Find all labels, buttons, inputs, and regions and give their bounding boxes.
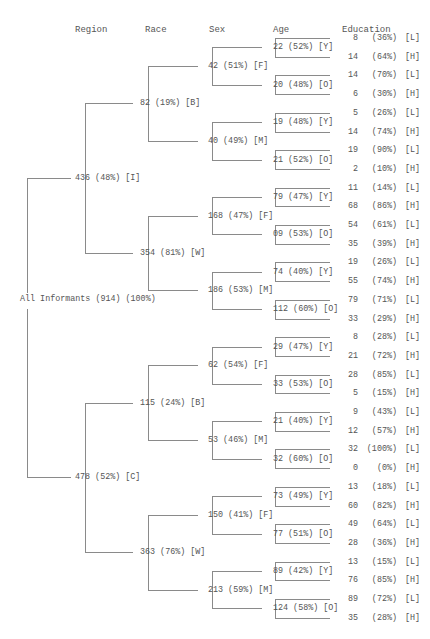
education-count: 14 — [338, 70, 358, 80]
education-percent: (10%) — [361, 164, 397, 174]
age-node-label: 21 (40%) [Y] — [273, 416, 333, 426]
region-bracket-top — [85, 403, 133, 404]
education-category: [H] — [405, 426, 420, 436]
education-count: 79 — [338, 295, 358, 305]
age-bracket-bottom — [275, 356, 330, 357]
education-count: 12 — [338, 426, 358, 436]
race-bracket-top — [148, 66, 198, 67]
age-node-label: 20 (48%) [O] — [273, 80, 333, 90]
age-bracket-top — [275, 524, 330, 525]
education-count: 33 — [338, 314, 358, 324]
education-percent: (72%) — [361, 594, 397, 604]
race-bracket-bottom — [148, 590, 198, 591]
region-bracket-bottom — [85, 552, 133, 553]
race-node-label: 115 (24%) [B] — [140, 398, 205, 408]
sex-node-label: 150 (41%) [F] — [208, 510, 273, 520]
education-percent: (74%) — [361, 276, 397, 286]
sex-bracket-top — [212, 571, 262, 572]
age-bracket-bottom — [275, 169, 330, 170]
sex-bracket-top — [212, 197, 262, 198]
education-category: [H] — [405, 127, 420, 137]
education-category: [L] — [405, 407, 420, 417]
education-count: 35 — [338, 613, 358, 623]
sex-bracket-bottom — [212, 608, 262, 609]
education-count: 8 — [338, 332, 358, 342]
region-bracket-top — [85, 103, 133, 104]
education-category: [L] — [405, 33, 420, 43]
education-count: 60 — [338, 501, 358, 511]
education-percent: (28%) — [361, 332, 397, 342]
sex-bracket-bottom — [212, 160, 262, 161]
education-category: [H] — [405, 89, 420, 99]
age-node-label: 77 (51%) [O] — [273, 529, 333, 539]
education-category: [H] — [405, 164, 420, 174]
education-percent: (15%) — [361, 388, 397, 398]
sex-bracket-top — [212, 122, 262, 123]
root-bracket-vertical-top — [27, 178, 28, 293]
education-percent: (57%) — [361, 426, 397, 436]
education-category: [H] — [405, 501, 420, 511]
sex-bracket-bottom — [212, 234, 262, 235]
age-bracket-top — [275, 375, 330, 376]
education-category: [H] — [405, 52, 420, 62]
education-count: 14 — [338, 127, 358, 137]
education-percent: (39%) — [361, 239, 397, 249]
root-bracket-vertical-bottom — [27, 309, 28, 478]
race-bracket-bottom — [148, 440, 198, 441]
race-bracket-bottom — [148, 290, 198, 291]
race-bracket-top — [148, 216, 198, 217]
education-category: [H] — [405, 239, 420, 249]
education-count: 11 — [338, 183, 358, 193]
sex-node-label: 40 (49%) [M] — [208, 136, 268, 146]
education-count: 9 — [338, 407, 358, 417]
education-category: [L] — [405, 145, 420, 155]
age-bracket-bottom — [275, 94, 330, 95]
age-bracket-bottom — [275, 132, 330, 133]
age-bracket-top — [275, 412, 330, 413]
region-node-label: 478 (52%) [C] — [75, 472, 140, 482]
education-category: [H] — [405, 388, 420, 398]
age-bracket-bottom — [275, 393, 330, 394]
education-percent: (26%) — [361, 257, 397, 267]
race-node-label: 354 (81%) [W] — [140, 248, 205, 258]
education-category: [L] — [405, 557, 420, 567]
education-percent: (74%) — [361, 127, 397, 137]
age-node-label: 74 (40%) [Y] — [273, 267, 333, 277]
education-percent: (61%) — [361, 220, 397, 230]
age-bracket-bottom — [275, 244, 330, 245]
age-node-label: 124 (58%) [O] — [273, 603, 338, 613]
education-category: [L] — [405, 519, 420, 529]
sex-bracket-bottom — [212, 459, 262, 460]
education-percent: (26%) — [361, 108, 397, 118]
education-count: 28 — [338, 538, 358, 548]
age-node-label: 22 (52%) [Y] — [273, 42, 333, 52]
education-count: 0 — [338, 463, 358, 473]
education-category: [H] — [405, 463, 420, 473]
education-percent: (28%) — [361, 613, 397, 623]
education-count: 21 — [338, 351, 358, 361]
age-bracket-bottom — [275, 580, 330, 581]
education-count: 89 — [338, 594, 358, 604]
age-node-label: 89 (42%) [Y] — [273, 566, 333, 576]
age-bracket-bottom — [275, 281, 330, 282]
education-category: [L] — [405, 108, 420, 118]
education-count: 19 — [338, 257, 358, 267]
education-category: [L] — [405, 594, 420, 604]
race-node-label: 82 (19%) [B] — [140, 98, 200, 108]
education-category: [H] — [405, 351, 420, 361]
education-percent: (82%) — [361, 501, 397, 511]
age-bracket-top — [275, 487, 330, 488]
sex-node-label: 53 (46%) [M] — [208, 435, 268, 445]
age-node-label: 19 (48%) [Y] — [273, 117, 333, 127]
education-category: [H] — [405, 613, 420, 623]
education-category: [H] — [405, 276, 420, 286]
sex-bracket-bottom — [212, 534, 262, 535]
education-category: [L] — [405, 444, 420, 454]
sex-bracket-bottom — [212, 85, 262, 86]
race-bracket-bottom — [148, 141, 198, 142]
education-count: 5 — [338, 108, 358, 118]
education-category: [H] — [405, 314, 420, 324]
education-category: [L] — [405, 295, 420, 305]
education-percent: (15%) — [361, 557, 397, 567]
education-percent: (29%) — [361, 314, 397, 324]
